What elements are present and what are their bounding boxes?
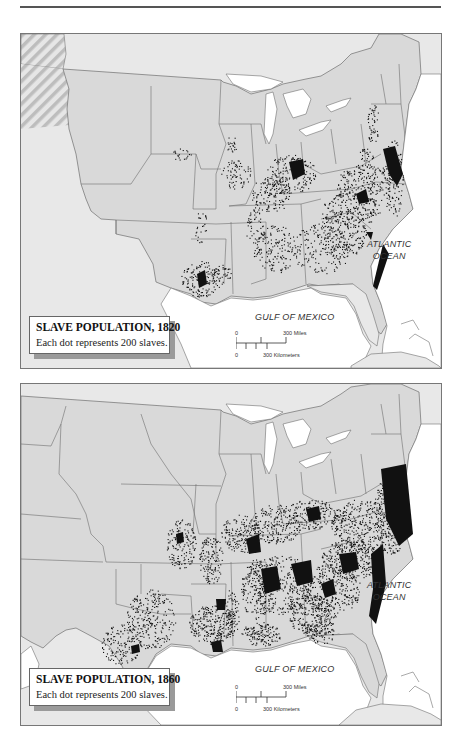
population-dot — [113, 655, 114, 656]
population-dot — [232, 613, 233, 614]
population-dot — [388, 540, 389, 541]
population-dot — [158, 611, 159, 612]
population-dot — [313, 638, 314, 639]
population-dot — [328, 565, 329, 566]
population-dot — [326, 619, 327, 620]
population-dot — [370, 572, 371, 573]
population-dot — [262, 634, 263, 635]
population-dot — [273, 605, 274, 606]
population-dot — [156, 606, 157, 607]
population-dot — [371, 213, 372, 214]
population-dot — [394, 193, 395, 194]
population-dot — [261, 561, 262, 562]
population-dot — [283, 263, 284, 264]
population-dot — [233, 616, 234, 617]
population-dot — [331, 219, 332, 220]
population-dot — [335, 513, 336, 514]
population-dot — [166, 615, 167, 616]
population-dot — [257, 562, 258, 563]
population-dot — [364, 544, 365, 545]
population-dot — [108, 657, 109, 658]
population-dot — [378, 186, 379, 187]
population-dot — [206, 544, 207, 545]
population-dot — [334, 258, 335, 259]
population-dot — [252, 637, 253, 638]
population-dot — [310, 167, 311, 168]
population-dot — [328, 605, 329, 606]
population-dot — [367, 182, 368, 183]
population-dot — [258, 595, 259, 596]
population-dot — [361, 188, 362, 189]
population-dot — [339, 589, 340, 590]
population-dot — [374, 105, 375, 106]
population-dot — [340, 193, 341, 194]
population-dot — [336, 518, 337, 519]
population-dot — [287, 179, 288, 180]
population-dot — [323, 244, 324, 245]
population-dot — [275, 604, 276, 605]
population-dot — [201, 232, 202, 233]
population-dot — [307, 631, 308, 632]
population-dot — [288, 267, 289, 268]
population-dot — [255, 513, 256, 514]
population-dot — [178, 530, 179, 531]
population-dot — [349, 524, 350, 525]
population-dot — [120, 651, 121, 652]
population-dot — [205, 231, 206, 232]
population-dot — [257, 248, 258, 249]
population-dot — [329, 620, 330, 621]
population-dot — [293, 581, 294, 582]
population-dot — [309, 503, 310, 504]
population-dot — [362, 549, 363, 550]
population-dot — [338, 603, 339, 604]
population-dot — [327, 234, 328, 235]
population-dot — [283, 171, 284, 172]
population-dot — [370, 539, 371, 540]
population-dot — [255, 207, 256, 208]
population-dot — [328, 218, 329, 219]
population-dot — [255, 593, 256, 594]
population-dot — [263, 239, 264, 240]
population-dot — [314, 233, 315, 234]
population-dot — [250, 535, 251, 536]
population-dot — [284, 165, 285, 166]
population-dot — [130, 604, 131, 605]
population-dot — [297, 530, 298, 531]
population-dot — [271, 540, 272, 541]
population-dot — [289, 196, 290, 197]
population-dot — [240, 527, 241, 528]
population-dot — [170, 541, 171, 542]
population-dot — [265, 642, 266, 643]
population-dot — [314, 625, 315, 626]
population-dot — [328, 241, 329, 242]
population-dot — [206, 626, 207, 627]
population-dot — [196, 277, 197, 278]
population-dot — [250, 521, 251, 522]
population-dot — [371, 550, 372, 551]
population-dot — [356, 184, 357, 185]
population-dot — [399, 203, 400, 204]
population-dot — [133, 628, 134, 629]
population-dot — [301, 244, 302, 245]
population-dot — [335, 528, 336, 529]
population-dot — [269, 611, 270, 612]
population-dot — [243, 535, 244, 536]
population-dot — [217, 557, 218, 558]
population-dot — [103, 649, 104, 650]
population-dot — [325, 503, 326, 504]
population-dot — [359, 222, 360, 223]
population-dot — [334, 214, 335, 215]
population-dot — [237, 607, 238, 608]
population-dot — [316, 596, 317, 597]
population-dot — [212, 570, 213, 571]
population-dot — [133, 629, 134, 630]
population-dot — [373, 112, 374, 113]
population-dot — [204, 613, 205, 614]
population-dot — [284, 159, 285, 160]
population-dot — [367, 158, 368, 159]
population-dot — [210, 644, 211, 645]
population-dot — [198, 614, 199, 615]
population-dot — [276, 188, 277, 189]
population-dot — [260, 625, 261, 626]
population-dot — [192, 629, 193, 630]
